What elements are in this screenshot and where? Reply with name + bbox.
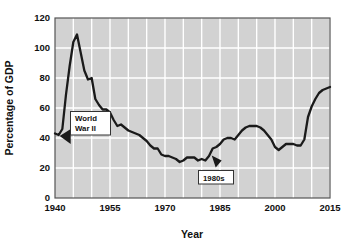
chart-canvas: 020406080100120 194019551970198520002015…	[0, 0, 348, 244]
x-tick-2015: 2015	[319, 202, 341, 213]
y-tick-120: 120	[34, 12, 50, 23]
nineteen-eighties-label: 1980s	[203, 174, 225, 183]
x-axis-tick-labels: 194019551970198520002015	[44, 202, 341, 213]
world-war-ii-label-line-2: War II	[75, 124, 96, 133]
x-tick-1955: 1955	[99, 202, 121, 213]
y-axis-title: Percentage of GDP	[3, 60, 15, 155]
y-tick-40: 40	[39, 132, 50, 143]
world-war-ii-label-line-1: World	[75, 114, 97, 123]
x-tick-2000: 2000	[264, 202, 285, 213]
y-tick-20: 20	[39, 162, 50, 173]
y-tick-60: 60	[39, 102, 50, 113]
y-axis-tick-labels: 020406080100120	[34, 12, 50, 203]
x-tick-1985: 1985	[209, 202, 231, 213]
y-tick-80: 80	[39, 72, 50, 83]
gdp-debt-chart: 020406080100120 194019551970198520002015…	[0, 0, 348, 244]
x-axis-title: Year	[181, 228, 203, 240]
y-tick-100: 100	[34, 42, 50, 53]
x-tick-1970: 1970	[154, 202, 175, 213]
x-tick-1940: 1940	[44, 202, 65, 213]
